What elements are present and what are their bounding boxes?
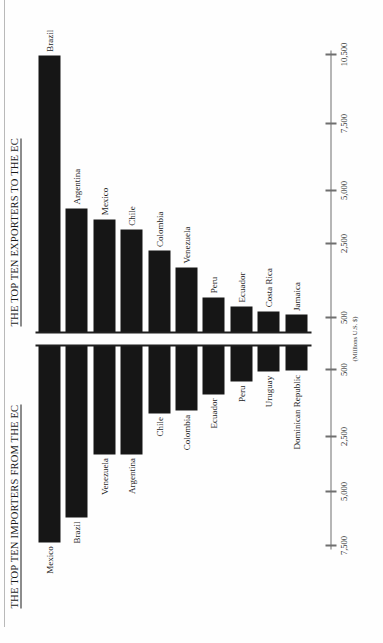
bar-label-ecuador: Ecuador xyxy=(235,272,247,302)
bar-label-dominican-republic: Dominican Republic xyxy=(290,375,302,450)
axis-tick-label-500: 500 xyxy=(339,363,349,376)
bar-chile xyxy=(148,346,170,414)
bar-label-peru: Peru xyxy=(235,386,247,403)
axis-tick-2500 xyxy=(326,243,337,244)
axis-tick-label-5000: 5,000 xyxy=(339,181,349,200)
exporters-chart-title: THE TOP TEN EXPORTERS TO THE EC xyxy=(9,138,22,326)
bar-costa-rica xyxy=(258,311,280,332)
axis-tick-7500 xyxy=(326,123,337,124)
bar-brazil xyxy=(66,346,88,518)
bar-peru xyxy=(230,346,252,382)
bar-argentina xyxy=(121,346,143,455)
axis-tick-label-7500: 7,500 xyxy=(339,536,349,555)
bar-argentina xyxy=(66,209,88,333)
axis-tick-label-10500: 10,500 xyxy=(339,43,349,66)
bar-label-mexico: Mexico xyxy=(44,546,56,574)
bar-label-argentina: Argentina xyxy=(71,169,83,205)
axis-tick-500 xyxy=(326,369,337,370)
axis-tick-10500 xyxy=(326,54,337,55)
bar-ecuador xyxy=(203,346,225,395)
bar-colombia xyxy=(148,251,170,333)
axis-rule xyxy=(331,51,332,550)
axis-units-label: (Millions U.S. $) xyxy=(351,316,358,361)
bar-venezuela xyxy=(93,346,115,455)
bar-label-ecuador: Ecuador xyxy=(208,399,220,429)
bar-mexico xyxy=(39,346,61,543)
figure-canvas: THE TOP TEN EXPORTERS TO THE EC THE TOP … xyxy=(1,0,373,627)
bar-dominican-republic xyxy=(285,346,307,371)
bar-mexico xyxy=(93,219,115,332)
axis-tick-5000 xyxy=(326,491,337,492)
axis-tick-7500 xyxy=(326,545,337,546)
bar-label-colombia: Colombia xyxy=(153,211,165,247)
axis-tick-label-2500: 2,500 xyxy=(339,234,349,253)
bar-colombia xyxy=(176,346,198,411)
axis-tick-500 xyxy=(326,317,337,318)
bar-uruguay xyxy=(258,346,280,372)
bar-label-mexico: Mexico xyxy=(98,188,110,216)
bar-chile xyxy=(121,230,143,333)
bar-label-peru: Peru xyxy=(208,277,220,294)
bar-label-brazil: Brazil xyxy=(44,30,56,52)
bar-label-uruguay: Uruguay xyxy=(263,376,275,408)
bar-label-venezuela: Venezuela xyxy=(98,458,110,495)
bar-label-brazil: Brazil xyxy=(71,521,83,543)
axis-tick-2500 xyxy=(326,436,337,437)
axis-tick-label-2500: 2,500 xyxy=(339,427,349,446)
bar-venezuela xyxy=(176,268,198,333)
exporters-zero-line xyxy=(36,332,312,333)
importers-zero-line xyxy=(36,345,312,346)
axis-tick-label-5000: 5,000 xyxy=(339,482,349,501)
bar-label-venezuela: Venezuela xyxy=(181,227,193,264)
bar-label-colombia: Colombia xyxy=(181,415,193,451)
bar-peru xyxy=(203,297,225,332)
bar-brazil xyxy=(39,56,61,333)
bar-ecuador xyxy=(230,306,252,332)
axis-tick-label-500: 500 xyxy=(339,311,349,324)
axis-tick-label-7500: 7,500 xyxy=(339,114,349,133)
bar-jamaica xyxy=(285,315,307,333)
bar-label-jamaica: Jamaica xyxy=(290,282,302,311)
axis-tick-5000 xyxy=(326,190,337,191)
bar-label-costa-rica: Costa Rica xyxy=(263,268,275,307)
importers-chart-title: THE TOP TEN IMPORTERS FROM THE EC xyxy=(9,405,22,609)
bar-label-chile: Chile xyxy=(153,417,165,437)
bar-label-argentina: Argentina xyxy=(126,458,138,494)
bar-label-chile: Chile xyxy=(126,206,138,226)
